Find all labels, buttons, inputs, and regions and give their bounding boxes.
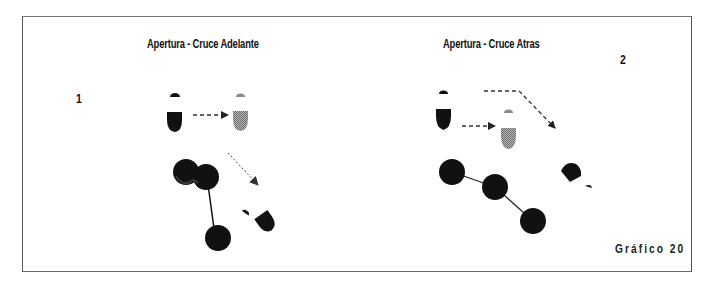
shaded-player-icon (501, 110, 516, 149)
rotated-player-icon (561, 163, 592, 188)
diagram-canvas (0, 0, 709, 284)
dotted-arrow-icon (228, 153, 258, 185)
shaded-player-icon (233, 94, 248, 132)
player-icon (167, 93, 182, 132)
panel-1 (167, 93, 278, 251)
player-icon (436, 91, 451, 131)
ball-chain-icon (439, 159, 546, 234)
ball-chain-icon (173, 159, 231, 251)
panel-2 (436, 91, 592, 235)
rotated-player-icon (241, 198, 278, 238)
bent-dashed-arrow-icon (484, 91, 555, 128)
